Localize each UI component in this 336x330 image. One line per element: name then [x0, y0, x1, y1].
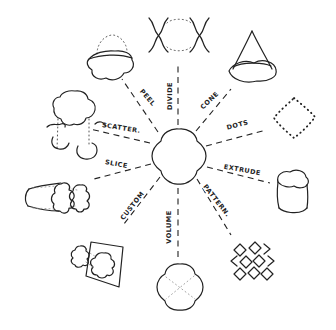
volume-inner-dotted-2	[166, 276, 194, 299]
spoke-label-slice: SLICE	[104, 158, 128, 170]
shape-volume	[157, 264, 203, 310]
shape-extrude	[277, 170, 308, 213]
operations-sketch-diagram: PEEL DIVIDE CONE DOTS EXTRUDE PATTERN. V…	[0, 0, 336, 330]
spoke-line-custom	[124, 177, 160, 224]
spoke-label-cone: CONE	[199, 90, 221, 111]
custom-plane-outline	[86, 242, 123, 287]
pattern-diamond	[234, 268, 246, 280]
spoke-label-volume: VOLUME	[165, 210, 173, 244]
pattern-chevron	[268, 256, 274, 266]
spoke-label-dots: DOTS	[226, 119, 249, 132]
shape-dots	[274, 98, 315, 138]
pattern-diamond	[249, 242, 261, 254]
pattern-diamond	[253, 255, 265, 267]
pattern-diamond	[240, 256, 252, 268]
shape-scatter	[47, 91, 106, 159]
volume-blob-outline	[157, 264, 203, 310]
spoke-line-dots	[206, 130, 266, 146]
extrude-right-side	[307, 185, 308, 208]
volume-inner-dotted-1	[166, 277, 195, 299]
slice-loaf-face	[51, 183, 74, 213]
extrude-top-rim	[278, 170, 309, 185]
extrude-left-side	[277, 182, 279, 208]
spoke-label-divide: DIVIDE	[166, 82, 174, 110]
pattern-chevron	[231, 256, 237, 266]
spoke-label-custom: CUSTOM	[119, 190, 146, 222]
cone-base-inner-line	[233, 63, 271, 67]
shape-divide	[149, 18, 209, 52]
peel-cut-line	[89, 55, 132, 59]
custom-blob-on-plane	[91, 253, 115, 278]
shape-custom	[71, 242, 123, 287]
spoke-labels: PEEL DIVIDE CONE DOTS EXTRUDE PATTERN. V…	[101, 82, 261, 244]
center-blob-outline	[152, 129, 206, 184]
extrude-rim-underside	[278, 182, 307, 188]
scatter-fragment-1	[47, 124, 65, 127]
divide-top-dotted-arc	[167, 19, 191, 23]
divide-bottom-dotted-arc	[167, 47, 191, 51]
scatter-fragment-2	[52, 137, 69, 149]
shape-cone	[229, 31, 276, 82]
scatter-fragment-3	[77, 143, 97, 159]
spoke-label-peel: PEEL	[138, 88, 157, 108]
shape-pattern	[231, 242, 274, 280]
shape-slice	[25, 183, 89, 213]
pattern-diamond	[234, 244, 246, 256]
dots-diamond-outline	[274, 98, 315, 138]
pattern-diamond	[261, 268, 273, 280]
center-blob-shape	[152, 129, 206, 184]
slice-loaf-endcap	[25, 189, 29, 206]
extrude-bottom	[279, 208, 307, 213]
pattern-chevron	[264, 244, 270, 254]
spoke-label-pattern: PATTERN.	[201, 183, 231, 219]
shape-peel	[87, 35, 133, 80]
scatter-dotted-left	[57, 119, 58, 150]
custom-small-blob	[71, 246, 89, 267]
spoke-label-extrude: EXTRUDE	[223, 163, 261, 177]
pattern-diamond	[248, 267, 260, 279]
